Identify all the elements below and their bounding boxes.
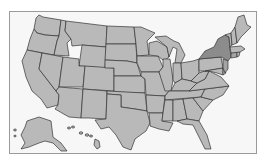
state-arkansas[interactable]	[146, 95, 165, 113]
state-rhode-island[interactable]	[237, 52, 240, 57]
island-dot	[14, 135, 16, 137]
state-iowa[interactable]	[137, 56, 163, 72]
island-dot	[14, 129, 17, 131]
state-massachusetts[interactable]	[230, 46, 245, 53]
state-kansas[interactable]	[114, 76, 145, 93]
state-colorado[interactable]	[83, 66, 114, 91]
state-montana[interactable]	[65, 21, 107, 47]
state-hawaii[interactable]	[67, 126, 100, 149]
state-new-york[interactable]	[199, 35, 231, 61]
state-alaska[interactable]	[21, 117, 67, 151]
state-florida[interactable]	[177, 119, 211, 149]
state-north-dakota[interactable]	[106, 26, 136, 44]
state-wyoming[interactable]	[79, 45, 106, 68]
state-new-mexico[interactable]	[81, 89, 107, 119]
state-maine[interactable]	[235, 15, 251, 43]
state-washington[interactable]	[34, 15, 61, 36]
state-arizona[interactable]	[55, 87, 83, 118]
us-states-map	[9, 11, 257, 154]
